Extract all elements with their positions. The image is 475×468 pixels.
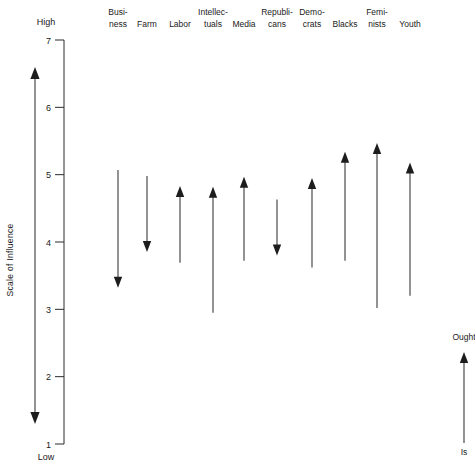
y-axis: 7654321HighLow xyxy=(30,17,64,462)
category-header-line2-blacks: Blacks xyxy=(332,19,357,29)
scale-of-influence-chart: 7654321HighLow Busi-nessFarmLaborIntelle… xyxy=(0,0,475,468)
arrow-democrats-head xyxy=(308,178,316,189)
category-header-feminists: Femi-nists xyxy=(366,7,388,29)
category-header-line1-intellectuals: Intellec- xyxy=(198,7,228,17)
y-axis-low-label: Low xyxy=(38,452,55,462)
y-axis-tick-label-5: 5 xyxy=(46,170,51,180)
arrow-democrats xyxy=(308,178,316,268)
category-header-republicans: Republi-cans xyxy=(261,7,293,29)
arrow-labor-head xyxy=(176,186,184,197)
category-header-line1-democrats: Demo- xyxy=(299,7,325,17)
category-header-line2-labor: Labor xyxy=(169,19,191,29)
y-axis-tick-label-4: 4 xyxy=(46,238,51,248)
arrow-media xyxy=(240,177,248,261)
legend: OughtIs xyxy=(452,332,475,457)
legend-ought-label: Ought xyxy=(452,332,475,342)
category-header-business: Busi-ness xyxy=(108,7,128,29)
y-axis-high-label: High xyxy=(37,17,56,27)
category-header-line2-business: ness xyxy=(109,19,127,29)
scale-of-influence-range-arrow xyxy=(30,67,39,424)
category-header-youth: Youth xyxy=(399,19,421,29)
y-axis-tick-label-3: 3 xyxy=(46,305,51,315)
legend-arrow-head xyxy=(460,352,468,363)
category-header-line2-feminists: nists xyxy=(368,19,385,29)
category-header-row: Busi-nessFarmLaborIntellec-tualsMediaRep… xyxy=(108,7,421,29)
legend-is-label: Is xyxy=(461,447,468,457)
category-header-line2-intellectuals: tuals xyxy=(204,19,222,29)
category-header-line1-business: Busi- xyxy=(108,7,128,17)
arrow-blacks-head xyxy=(341,152,349,163)
category-header-line2-farm: Farm xyxy=(137,19,157,29)
arrow-farm-head xyxy=(143,241,151,252)
arrow-farm xyxy=(143,176,151,252)
category-header-line2-republicans: cans xyxy=(268,19,286,29)
category-header-farm: Farm xyxy=(137,19,157,29)
category-header-blacks: Blacks xyxy=(332,19,357,29)
arrow-intellectuals xyxy=(209,187,217,313)
category-header-media: Media xyxy=(232,19,255,29)
y-axis-tick-label-6: 6 xyxy=(46,103,51,113)
y-axis-title: Scale of Influence xyxy=(5,224,15,297)
y-axis-tick-label-2: 2 xyxy=(46,372,51,382)
arrow-blacks xyxy=(341,152,349,261)
range-arrow-head-up xyxy=(30,67,39,79)
category-header-intellectuals: Intellec-tuals xyxy=(198,7,228,29)
arrow-republicans-head xyxy=(273,244,281,255)
y-axis-title-group: Scale of Influence xyxy=(5,224,15,297)
arrow-media-head xyxy=(240,177,248,188)
arrow-youth xyxy=(406,163,414,296)
arrow-labor xyxy=(176,186,184,263)
category-header-labor: Labor xyxy=(169,19,191,29)
arrow-feminists-head xyxy=(373,143,381,154)
arrow-feminists xyxy=(373,143,381,308)
arrow-business-head xyxy=(114,277,122,288)
chart-canvas: 7654321HighLow Busi-nessFarmLaborIntelle… xyxy=(0,0,475,468)
arrow-business xyxy=(114,170,122,288)
category-header-line2-media: Media xyxy=(232,19,255,29)
category-header-line2-democrats: crats xyxy=(303,19,321,29)
legend-arrow xyxy=(460,352,468,443)
arrow-intellectuals-head xyxy=(209,187,217,198)
range-arrow-head-down xyxy=(30,412,39,424)
category-header-line1-feminists: Femi- xyxy=(366,7,388,17)
y-axis-tick-label-7: 7 xyxy=(46,36,51,46)
category-header-democrats: Demo-crats xyxy=(299,7,325,29)
category-header-line1-republicans: Republi- xyxy=(261,7,293,17)
category-arrows xyxy=(114,143,414,313)
arrow-youth-head xyxy=(406,163,414,174)
arrow-republicans xyxy=(273,200,281,256)
y-axis-tick-label-1: 1 xyxy=(46,440,51,450)
category-header-line2-youth: Youth xyxy=(399,19,421,29)
